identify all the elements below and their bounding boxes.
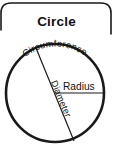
radius-label: Radius — [63, 81, 95, 92]
circumference-label-text: Circumference — [21, 39, 89, 59]
diagram-canvas: Circle Circumference Diameter Radius — [0, 0, 113, 158]
circumference-label: Circumference — [21, 39, 89, 59]
figure-title: Circle — [37, 14, 76, 29]
circle-diagram-figure: Circle Circumference Diameter Radius — [0, 0, 113, 158]
